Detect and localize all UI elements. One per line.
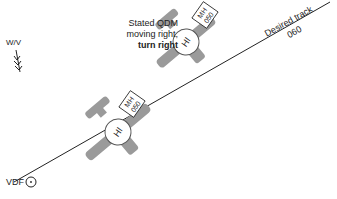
stated-qdm-note: Stated QDM moving right, turn right bbox=[118, 18, 178, 51]
vdf-icon bbox=[26, 177, 36, 187]
vdf-label: VDF bbox=[6, 177, 24, 188]
wind-arrow-icon bbox=[14, 50, 22, 72]
stated-line-2: moving right, bbox=[118, 29, 178, 40]
stated-line-3: turn right bbox=[118, 40, 178, 51]
stated-line-1: Stated QDM bbox=[118, 18, 178, 29]
wind-label: W/V bbox=[6, 37, 21, 48]
